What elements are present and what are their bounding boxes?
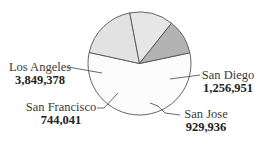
label-san-diego: San Diego 1,256,951 — [198, 69, 258, 95]
label-value: 744,041 — [22, 114, 100, 127]
pie-slices — [88, 12, 191, 115]
label-value: 929,936 — [178, 121, 234, 134]
label-value: 1,256,951 — [198, 82, 258, 95]
label-san-jose: San Jose 929,936 — [178, 108, 234, 134]
label-san-francisco: San Francisco 744,041 — [22, 101, 100, 127]
label-los-angeles: Los Angeles 3,849,378 — [8, 61, 72, 87]
label-value: 3,849,378 — [8, 74, 72, 87]
